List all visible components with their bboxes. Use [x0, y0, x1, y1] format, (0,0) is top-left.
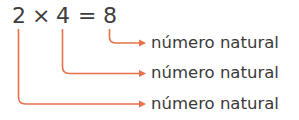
- product: 8: [103, 4, 117, 28]
- label-factor-2: número natural: [151, 63, 279, 83]
- arrowhead-icon: [139, 40, 146, 47]
- arrow-from-factor1: [19, 29, 141, 104]
- label-factor-1: número natural: [151, 94, 279, 114]
- factor-2: 4: [56, 4, 70, 28]
- equals-sign: =: [78, 4, 96, 28]
- label-product: número natural: [151, 33, 279, 53]
- arrow-from-product: [110, 29, 141, 43]
- factor-1: 2: [12, 4, 26, 28]
- arrow-from-factor2: [63, 29, 141, 74]
- arrowhead-icon: [139, 70, 146, 77]
- arrowhead-icon: [139, 101, 146, 108]
- multiply-operator: ×: [32, 4, 50, 28]
